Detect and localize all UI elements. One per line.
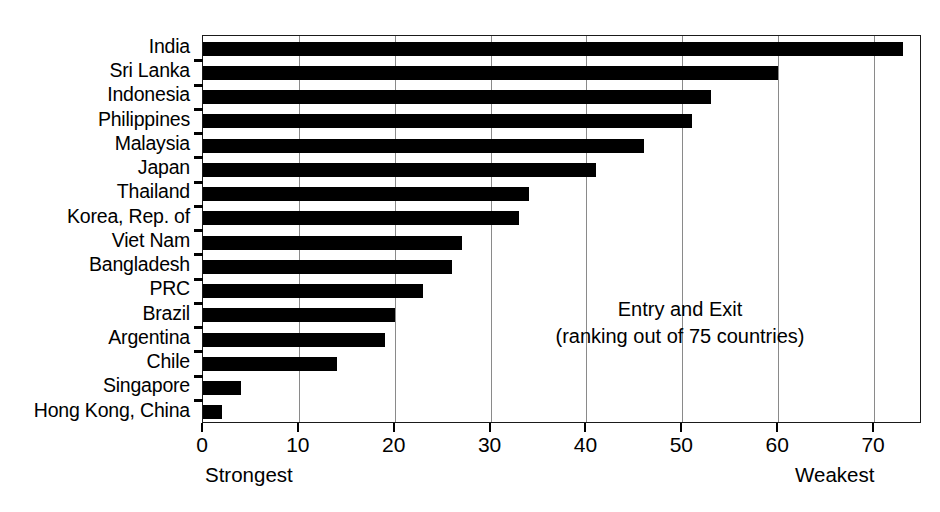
value-tick-label: 10	[286, 434, 309, 455]
scale-caption-strongest: Strongest	[205, 464, 293, 486]
value-tick-label: 50	[670, 434, 693, 455]
category-label: Bangladesh	[89, 255, 190, 275]
bar-india	[203, 42, 903, 56]
category-label: Chile	[147, 352, 190, 372]
category-tick	[194, 229, 203, 232]
category-tick	[194, 59, 203, 62]
gridline-70	[874, 36, 875, 422]
category-label: Viet Nam	[112, 231, 190, 251]
category-tick	[194, 132, 203, 135]
category-label: Sri Lanka	[109, 61, 190, 81]
value-tick-label: 30	[478, 434, 501, 455]
category-tick	[194, 278, 203, 281]
value-tick-40	[584, 423, 586, 432]
category-label: Thailand	[117, 182, 190, 202]
category-label: Hong Kong, China	[34, 401, 190, 421]
value-tick-70	[872, 423, 874, 432]
category-tick	[194, 108, 203, 111]
category-tick	[194, 375, 203, 378]
category-tick	[194, 156, 203, 159]
category-tick	[194, 350, 203, 353]
bar-singapore	[203, 381, 241, 395]
bar-hong-kong-china	[203, 405, 222, 419]
category-tick	[194, 302, 203, 305]
bar-thailand	[203, 187, 529, 201]
bar-indonesia	[203, 90, 711, 104]
bar-bangladesh	[203, 260, 452, 274]
category-tick	[194, 181, 203, 184]
category-tick	[194, 253, 203, 256]
value-tick-label: 40	[574, 434, 597, 455]
category-label: Brazil	[142, 304, 190, 324]
category-axis-labels: IndiaSri LankaIndonesiaPhilippinesMalays…	[0, 35, 196, 423]
value-tick-60	[776, 423, 778, 432]
category-tick	[194, 326, 203, 329]
category-label: Singapore	[103, 376, 190, 396]
bar-viet-nam	[203, 236, 462, 250]
value-tick-label: 0	[196, 434, 208, 455]
entry-and-exit-bar-chart: IndiaSri LankaIndonesiaPhilippinesMalays…	[0, 0, 940, 512]
category-label: PRC	[149, 279, 190, 299]
gridline-60	[778, 36, 779, 422]
bar-sri-lanka	[203, 66, 778, 80]
bar-malaysia	[203, 139, 644, 153]
value-tick-20	[393, 423, 395, 432]
value-tick-30	[489, 423, 491, 432]
category-label: Japan	[138, 158, 190, 178]
value-tick-0	[201, 423, 203, 432]
scale-caption-weakest: Weakest	[795, 464, 874, 486]
bar-korea-rep-of	[203, 211, 519, 225]
bar-argentina	[203, 333, 385, 347]
value-tick-10	[297, 423, 299, 432]
bar-japan	[203, 163, 596, 177]
bar-chile	[203, 357, 337, 371]
category-tick	[194, 399, 203, 402]
value-tick-label: 60	[766, 434, 789, 455]
category-label: India	[149, 37, 190, 57]
value-tick-label: 70	[861, 434, 884, 455]
bar-philippines	[203, 114, 692, 128]
category-label: Malaysia	[115, 134, 190, 154]
category-tick	[194, 84, 203, 87]
bar-prc	[203, 284, 423, 298]
category-label: Philippines	[98, 110, 190, 130]
value-tick-50	[680, 423, 682, 432]
category-label: Indonesia	[107, 85, 190, 105]
category-label: Korea, Rep. of	[67, 207, 190, 227]
bar-brazil	[203, 308, 395, 322]
category-tick	[194, 205, 203, 208]
value-tick-label: 20	[382, 434, 405, 455]
plot-area	[202, 35, 921, 423]
category-label: Argentina	[108, 328, 190, 348]
